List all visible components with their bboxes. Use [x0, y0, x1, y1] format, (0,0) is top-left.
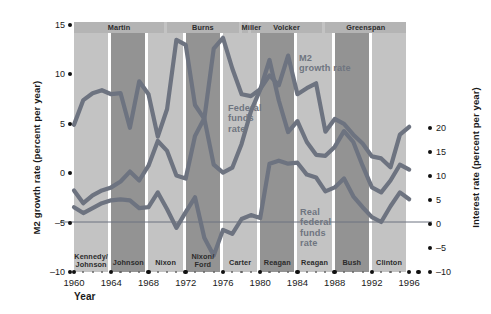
y-tick-left-dot	[68, 72, 72, 76]
x-tick-dot-1997	[416, 270, 421, 275]
x-tick-dot-1988	[332, 270, 337, 275]
x-tick-label-1988: 1988	[315, 277, 355, 288]
x-tick-dot-1984	[295, 270, 300, 275]
y-tick-left-dot	[68, 221, 72, 225]
chart-figure: Kennedy/JohnsonJohnsonNixonNixon/FordCar…	[0, 0, 491, 314]
y-tick-right-15: 15	[428, 147, 468, 157]
y-tick-right-neg10: –10	[428, 267, 468, 277]
y-tick-left-label: 0	[60, 168, 65, 178]
y-tick-right-label: 10	[436, 171, 446, 181]
president-label-7: Reagan	[297, 259, 331, 267]
y-tick-left-label: 10	[55, 69, 65, 79]
x-tick-dot-1965	[119, 271, 121, 273]
x-tick-dot-1978	[240, 271, 242, 273]
y-tick-left-dot	[68, 122, 72, 126]
x-tick-label-1984: 1984	[277, 277, 317, 288]
president-label-3: Nixon	[148, 259, 182, 267]
chairman-label-3: Miller	[242, 24, 248, 32]
y-tick-right-dot	[428, 126, 432, 130]
president-label-8: Bush	[335, 259, 369, 267]
x-tick-label-1964: 1964	[91, 277, 131, 288]
x-tick-label-1960: 1960	[54, 277, 94, 288]
real-federal-funds-rate-label: Realfederalfundsrate	[300, 207, 331, 249]
y-tick-right-dot	[428, 198, 432, 202]
y-tick-right-dot	[428, 270, 432, 274]
x-tick-dot-1981	[268, 271, 270, 273]
federal-funds-rate-label: Federalfundsrate	[228, 103, 262, 134]
x-tick-label-1972: 1972	[166, 277, 206, 288]
y-tick-left-dot	[68, 23, 72, 27]
y-tick-left-15: 15	[0, 20, 72, 30]
x-tick-dot-1968	[146, 270, 151, 275]
chairman-label-2: Burns	[167, 24, 238, 32]
y-tick-left-label: 5	[60, 119, 65, 129]
y-tick-right-dot	[428, 150, 432, 154]
y-tick-right-dot	[428, 222, 432, 226]
x-tick-label-1996: 1996	[389, 277, 429, 288]
y-tick-right-label: –10	[436, 267, 451, 277]
y-tick-right-0: 0	[428, 219, 468, 229]
y-tick-left-label: –10	[50, 267, 65, 277]
x-tick-dot-1985	[306, 271, 308, 273]
x-tick-dot-1995	[399, 271, 401, 273]
y-tick-left-label: 15	[55, 20, 65, 30]
y-tick-right-label: 5	[436, 195, 441, 205]
chairman-label-4: Volcker	[251, 24, 322, 32]
president-label-6: Reagan	[260, 259, 294, 267]
x-tick-label-1992: 1992	[352, 277, 392, 288]
president-label-5: Carter	[223, 259, 257, 267]
x-tick-dot-1994	[389, 271, 391, 273]
y-axis-right-title: Interest rate (percent per year)	[470, 38, 481, 278]
y-tick-left-dot	[68, 171, 72, 175]
y-tick-right-dot	[428, 174, 432, 178]
y-tick-right-dot	[428, 246, 432, 250]
president-label-1: Kennedy/Johnson	[74, 253, 108, 268]
x-tick-label-1976: 1976	[203, 277, 243, 288]
y-tick-right-label: 0	[436, 219, 441, 229]
x-axis-title: Year	[74, 291, 96, 302]
y-tick-right-label: –5	[436, 243, 446, 253]
y-tick-right-label: 20	[436, 123, 446, 133]
x-tick-dot-1966	[129, 271, 131, 273]
x-tick-label-1980: 1980	[240, 277, 280, 288]
y-tick-right-10: 10	[428, 171, 468, 181]
m2-growth-rate-label: M2growth rate	[299, 53, 351, 74]
y-axis-left-title: M2 growth rate (percent per year)	[31, 38, 42, 278]
y-tick-right-label: 15	[436, 147, 446, 157]
x-tick-dot-1991	[362, 271, 364, 273]
y-tick-right-neg5: –5	[428, 243, 468, 253]
x-tick-dot-1975	[213, 271, 215, 273]
president-label-2: Johnson	[111, 259, 145, 267]
x-tick-dot-1982	[278, 271, 280, 273]
president-label-4: Nixon/Ford	[186, 253, 220, 268]
x-tick-dot-1969	[157, 271, 159, 273]
chairman-label-5: Greenspan	[325, 24, 406, 32]
y-tick-right-20: 20	[428, 123, 468, 133]
y-tick-right-5: 5	[428, 195, 468, 205]
president-label-9: Clinton	[372, 259, 406, 267]
chairman-label-1: Martin	[74, 24, 164, 32]
x-tick-dot-1962	[92, 271, 94, 273]
x-tick-dot-1979	[250, 271, 252, 273]
y-tick-left-label: –5	[55, 218, 65, 228]
x-tick-label-1968: 1968	[128, 277, 168, 288]
